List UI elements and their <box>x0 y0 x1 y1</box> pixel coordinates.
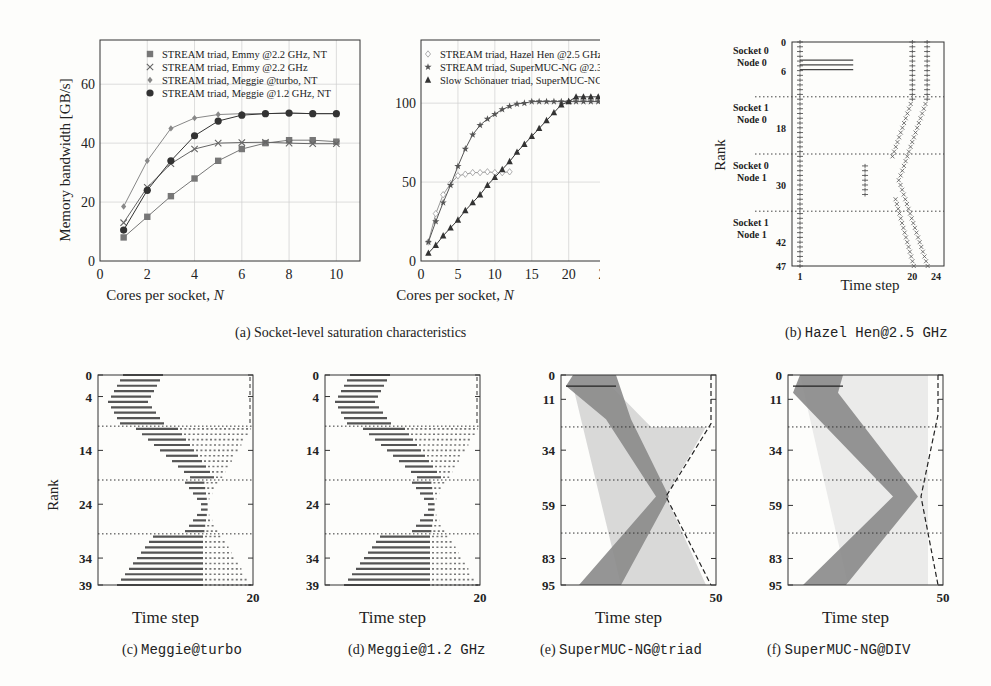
svg-text:20: 20 <box>247 590 260 605</box>
caption-a: (a) Socket-level saturation characterist… <box>235 325 466 341</box>
svg-text:11: 11 <box>770 392 782 407</box>
svg-text:24: 24 <box>79 497 93 512</box>
svg-text:Socket 0: Socket 0 <box>733 45 769 56</box>
svg-text:50: 50 <box>937 590 950 605</box>
b-xlabel: Time step <box>840 277 899 293</box>
chart-b: 061830424712024Socket 0Node 0Socket 1Nod… <box>700 0 991 310</box>
caption-b: (b) Hazel Hen@2.5 GHz <box>785 325 948 341</box>
chart-a2: 0510152025050100STREAM triad, Hazel Hen … <box>300 0 600 310</box>
svg-text:83: 83 <box>769 551 783 566</box>
svg-text:14: 14 <box>306 443 320 458</box>
svg-text:34: 34 <box>769 443 783 458</box>
svg-text:59: 59 <box>769 498 783 513</box>
svg-text:Time step: Time step <box>359 608 426 627</box>
heatmap-d: 041424343920Time step <box>306 368 487 627</box>
svg-text:20: 20 <box>907 271 917 282</box>
svg-text:24: 24 <box>931 271 941 282</box>
svg-text:100: 100 <box>395 96 416 111</box>
svg-text:STREAM triad, SuperMUC-NG @2.3: STREAM triad, SuperMUC-NG @2.3 GHz, NT <box>440 62 600 73</box>
svg-text:6: 6 <box>238 267 245 282</box>
svg-text:20: 20 <box>562 267 576 282</box>
heatmap-c: 041424343920Time step <box>79 368 260 627</box>
svg-text:20: 20 <box>81 195 95 210</box>
svg-text:0: 0 <box>313 368 320 383</box>
svg-text:8: 8 <box>286 267 293 282</box>
svg-text:34: 34 <box>306 551 320 566</box>
svg-text:STREAM triad, Emmy @2.2 GHz: STREAM triad, Emmy @2.2 GHz <box>162 62 308 73</box>
heatmap-e: 0113459839550Time step <box>542 368 723 627</box>
svg-text:0: 0 <box>86 368 93 383</box>
svg-text:40: 40 <box>81 136 95 151</box>
heatmaps-row: 041424343920Time step041424343920Time st… <box>0 360 991 686</box>
svg-text:95: 95 <box>542 578 556 593</box>
svg-text:0: 0 <box>409 254 416 269</box>
svg-text:Time step: Time step <box>822 608 889 627</box>
svg-text:50: 50 <box>402 175 416 190</box>
svg-text:25: 25 <box>599 267 600 282</box>
svg-text:50: 50 <box>710 590 723 605</box>
svg-text:0: 0 <box>776 368 783 383</box>
svg-text:47: 47 <box>776 261 786 272</box>
svg-text:4: 4 <box>191 267 198 282</box>
svg-text:STREAM triad, Meggie @turbo, N: STREAM triad, Meggie @turbo, NT <box>162 75 318 86</box>
svg-text:83: 83 <box>542 551 556 566</box>
svg-text:59: 59 <box>542 498 556 513</box>
caption-e: (e) SuperMUC-NG@triad <box>540 642 702 658</box>
svg-text:Node 1: Node 1 <box>737 229 767 240</box>
svg-text:0: 0 <box>97 267 104 282</box>
a1-ylabel: Memory bandwidth [GB/s] <box>57 78 73 241</box>
svg-text:Time step: Time step <box>132 608 199 627</box>
svg-text:Socket 1: Socket 1 <box>733 217 769 228</box>
svg-text:5: 5 <box>454 267 461 282</box>
caption-d: (d) Meggie@1.2 GHz <box>348 642 485 658</box>
heatmap-f: 0113459839550Time step <box>769 368 950 627</box>
svg-text:30: 30 <box>776 180 786 191</box>
svg-text:Socket 0: Socket 0 <box>733 160 769 171</box>
svg-text:0: 0 <box>418 267 425 282</box>
svg-text:Node 0: Node 0 <box>737 57 767 68</box>
svg-text:0: 0 <box>549 368 556 383</box>
svg-text:2: 2 <box>144 267 151 282</box>
svg-text:34: 34 <box>542 443 556 458</box>
svg-text:STREAM triad, Hazel Hen @2.5 G: STREAM triad, Hazel Hen @2.5 GHz, NT <box>440 49 600 60</box>
svg-text:95: 95 <box>769 578 783 593</box>
svg-text:0: 0 <box>88 254 95 269</box>
svg-text:6: 6 <box>781 66 786 77</box>
svg-text:4: 4 <box>86 390 93 405</box>
svg-text:11: 11 <box>543 392 555 407</box>
svg-text:Node 1: Node 1 <box>737 172 767 183</box>
a2-xlabel: Cores per socket, N <box>396 287 514 303</box>
svg-text:Time step: Time step <box>595 608 662 627</box>
svg-text:0: 0 <box>781 37 786 48</box>
svg-text:60: 60 <box>81 77 95 92</box>
svg-text:1: 1 <box>798 271 803 282</box>
svg-text:39: 39 <box>79 578 93 593</box>
b-ylabel: Rank <box>712 139 728 171</box>
svg-text:42: 42 <box>776 237 786 248</box>
svg-text:14: 14 <box>79 443 93 458</box>
svg-text:Slow Schönauer triad, SuperMUC: Slow Schönauer triad, SuperMUC-NG @2.3 G… <box>440 75 600 86</box>
svg-text:15: 15 <box>525 267 539 282</box>
rank-ylabel: Rank <box>45 479 61 511</box>
svg-text:39: 39 <box>306 578 320 593</box>
svg-text:18: 18 <box>776 123 786 134</box>
svg-text:10: 10 <box>488 267 502 282</box>
svg-text:4: 4 <box>313 390 320 405</box>
svg-text:24: 24 <box>306 497 320 512</box>
svg-text:34: 34 <box>79 551 93 566</box>
a1-xlabel: Cores per socket, N <box>106 287 224 303</box>
svg-text:Node 0: Node 0 <box>737 114 767 125</box>
caption-f: (f) SuperMUC-NG@DIV <box>767 642 911 658</box>
caption-c: (c) Meggie@turbo <box>122 642 242 658</box>
svg-text:20: 20 <box>474 590 487 605</box>
svg-text:Socket 1: Socket 1 <box>733 102 769 113</box>
